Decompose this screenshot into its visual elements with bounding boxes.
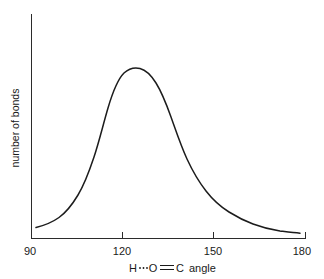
x-tick-label-90: 90 (24, 245, 36, 257)
distribution-curve (36, 68, 300, 233)
double-bond-icon (160, 266, 174, 270)
x-axis-label-atom-c: C (176, 262, 184, 274)
x-axis-label-atom-h: H (129, 262, 137, 274)
chart-figure: number of bonds 90 120 150 180 H O C ang… (0, 0, 324, 279)
x-axis-label-atom-o: O (149, 262, 158, 274)
x-tick-label-180: 180 (293, 245, 311, 257)
y-axis-label: number of bonds (9, 89, 21, 168)
x-tick-label-120: 120 (113, 245, 131, 257)
hydrogen-bond-dots-icon (139, 267, 148, 269)
x-axis-label-word: angle (189, 262, 216, 274)
plot-canvas: number of bonds 90 120 150 180 H O C ang… (0, 0, 324, 279)
x-axis-label: H O C angle (129, 262, 216, 274)
x-tick-label-150: 150 (204, 245, 222, 257)
